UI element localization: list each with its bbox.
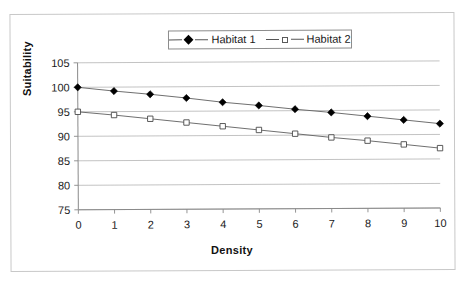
data-point-marker (74, 84, 81, 91)
data-point-marker (436, 120, 443, 127)
data-point-marker (291, 106, 298, 113)
x-tick-label: 1 (112, 219, 118, 231)
y-axis-tick-labels: 7580859095100105 (51, 57, 70, 216)
data-point-marker (110, 87, 117, 94)
x-axis-tick-labels: 012345678910 (75, 217, 446, 231)
x-tick-label: 5 (256, 218, 262, 230)
series-2 (75, 107, 443, 153)
gridlines (78, 61, 441, 210)
x-tick-label: 8 (365, 217, 371, 229)
data-point-marker (329, 135, 334, 140)
y-tick-label: 75 (58, 204, 70, 216)
x-tick-label: 3 (184, 218, 190, 230)
data-point-marker (365, 138, 370, 143)
plot-area: 7580859095100105 012345678910 (0, 0, 464, 286)
data-point-marker (184, 120, 189, 125)
y-tick-label: 100 (51, 81, 69, 93)
data-point-marker (220, 124, 225, 129)
x-tick-label: 7 (329, 217, 335, 229)
y-tick-label: 85 (58, 155, 70, 167)
series-1 (74, 82, 443, 129)
y-tick-label: 105 (51, 57, 69, 69)
data-point-marker (256, 127, 261, 132)
data-point-marker (111, 112, 116, 117)
y-tick-label: 90 (58, 130, 70, 142)
x-tick-label: 0 (75, 219, 81, 231)
chart-container: Habitat 1 Habitat 2 Suitability Density … (0, 0, 464, 286)
data-point-marker (255, 102, 262, 109)
data-point-marker (400, 116, 407, 123)
x-tick-label: 6 (293, 218, 299, 230)
data-point-marker (219, 99, 226, 106)
data-point-marker (364, 113, 371, 120)
data-point-marker (292, 131, 297, 136)
data-point-marker (328, 109, 335, 116)
data-series-layer (74, 82, 444, 153)
x-tick-label: 4 (220, 218, 226, 230)
y-tick-label: 80 (58, 179, 70, 191)
data-point-marker (75, 109, 80, 114)
x-tick-label: 10 (434, 217, 446, 229)
x-tick-label: 2 (148, 218, 154, 230)
data-point-marker (401, 142, 406, 147)
x-tick-label: 9 (401, 217, 407, 229)
data-point-marker (183, 94, 190, 101)
y-tick-label: 95 (58, 106, 70, 118)
data-point-marker (148, 116, 153, 121)
data-point-marker (437, 145, 442, 150)
data-point-marker (147, 91, 154, 98)
